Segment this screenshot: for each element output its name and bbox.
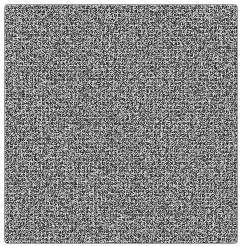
micrograph-image [4,4,238,244]
cell-texture [5,5,237,243]
